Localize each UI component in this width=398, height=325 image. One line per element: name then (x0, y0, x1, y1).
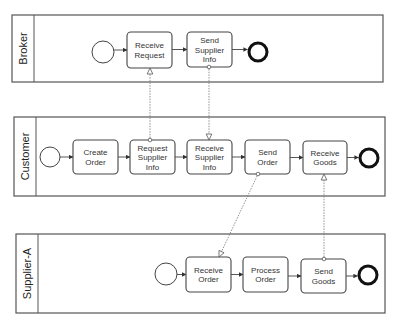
task-label: Process (251, 266, 280, 275)
pool-label: Broker (17, 32, 29, 65)
task-label: Supplier (195, 46, 225, 55)
start-event-icon[interactable] (92, 41, 114, 63)
task-send-order[interactable]: SendOrder (245, 140, 290, 174)
message-flow-send-goods-to-receive-goods[interactable] (321, 174, 327, 261)
message-flow-request-supplier-info-to-receive-request[interactable] (147, 68, 153, 142)
message-arrowhead-icon (206, 134, 212, 140)
end-event-icon[interactable] (360, 149, 378, 167)
task-label: Create (83, 148, 108, 157)
task-label: Receive (135, 41, 164, 50)
pool-label: Customer (19, 132, 31, 180)
task-label: Send (200, 36, 219, 45)
task-label: Order (85, 158, 106, 167)
task-create-order[interactable]: CreateOrder (73, 140, 118, 174)
task-label: Info (203, 55, 217, 64)
task-label: Order (198, 275, 219, 284)
task-receive-order[interactable]: ReceiveOrder (186, 257, 231, 292)
task-label: Send (314, 267, 333, 276)
pool-nodes-customer: CreateOrderRequestSupplierInfoReceiveSup… (40, 140, 378, 174)
task-label: Order (257, 158, 278, 167)
message-source-circle-icon (207, 65, 211, 69)
task-send-supplier-info[interactable]: SendSupplierInfo (187, 32, 232, 67)
bpmn-diagram: BrokerCustomerSupplier-A ReceiveRequestS… (0, 0, 398, 325)
end-event-icon[interactable] (249, 43, 267, 61)
end-event-icon[interactable] (359, 266, 377, 284)
message-arrowhead-icon (219, 250, 224, 257)
task-label: Info (146, 163, 160, 172)
task-label: Request (135, 51, 166, 60)
task-label: Goods (312, 277, 336, 286)
task-label: Request (138, 144, 169, 153)
task-label: Goods (313, 158, 337, 167)
start-event-icon[interactable] (155, 263, 177, 285)
message-arrowhead-icon (321, 174, 327, 180)
task-receive-supplier-info[interactable]: ReceiveSupplierInfo (187, 140, 232, 174)
task-request-supplier-info[interactable]: RequestSupplierInfo (130, 140, 175, 174)
message-flow-line (222, 176, 258, 252)
nodes-layer: ReceiveRequestSendSupplierInfoCreateOrde… (40, 32, 378, 293)
task-label: Receive (195, 144, 224, 153)
message-flow-send-order-to-receive-order[interactable] (219, 172, 260, 257)
message-source-circle-icon (256, 172, 260, 176)
task-process-order[interactable]: ProcessOrder (243, 257, 288, 292)
message-flow-send-supplier-info-to-receive-supplier-info[interactable] (206, 65, 212, 140)
message-source-circle-icon (322, 257, 326, 261)
pool-label: Supplier-A (21, 247, 33, 299)
task-label: Receive (311, 149, 340, 158)
task-receive-goods[interactable]: ReceiveGoods (303, 141, 347, 174)
pool-nodes-supplier-a: ReceiveOrderProcessOrderSendGoods (155, 257, 377, 293)
task-label: Order (255, 275, 276, 284)
start-event-icon[interactable] (40, 147, 60, 167)
task-label: Supplier (195, 153, 225, 162)
task-label: Info (203, 163, 217, 172)
task-receive-request[interactable]: ReceiveRequest (127, 32, 172, 68)
message-source-circle-icon (148, 138, 152, 142)
task-label: Receive (194, 266, 223, 275)
task-label: Send (258, 148, 277, 157)
task-send-goods[interactable]: SendGoods (301, 259, 346, 293)
message-arrowhead-icon (147, 68, 153, 74)
task-label: Supplier (138, 153, 168, 162)
